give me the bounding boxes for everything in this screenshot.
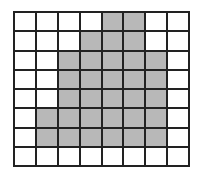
- grid-cell-empty: [15, 109, 35, 126]
- grid-cell-empty: [168, 52, 188, 69]
- grid-cell-shaded: [124, 109, 144, 126]
- grid-cell-empty: [168, 13, 188, 30]
- grid-cell-empty: [103, 148, 123, 165]
- grid-cell-shaded: [124, 90, 144, 107]
- grid-cell-shaded: [146, 109, 166, 126]
- grid-cell-empty: [37, 52, 57, 69]
- grid-cell-empty: [37, 90, 57, 107]
- grid-cell-shaded: [103, 109, 123, 126]
- grid-cell-shaded: [124, 52, 144, 69]
- grid-cell-empty: [81, 13, 101, 30]
- grid-cell-empty: [37, 148, 57, 165]
- grid-cell-empty: [59, 148, 79, 165]
- grid-cell-shaded: [59, 71, 79, 88]
- grid-cell-empty: [15, 32, 35, 49]
- grid-cell-empty: [59, 32, 79, 49]
- grid-cell-empty: [37, 32, 57, 49]
- grid-cell-shaded: [146, 90, 166, 107]
- grid-cell-shaded: [59, 90, 79, 107]
- grid-cell-empty: [124, 148, 144, 165]
- grid-cell-empty: [168, 32, 188, 49]
- grid-cell-shaded: [37, 109, 57, 126]
- grid-cell-shaded: [81, 32, 101, 49]
- grid-cell-shaded: [103, 129, 123, 146]
- grid-cell-empty: [168, 71, 188, 88]
- shaded-grid-diagram: [13, 11, 190, 167]
- grid-cell-shaded: [103, 13, 123, 30]
- grid-cell-shaded: [146, 129, 166, 146]
- grid-cell-empty: [15, 52, 35, 69]
- grid-cell-empty: [168, 109, 188, 126]
- grid-cell-empty: [168, 148, 188, 165]
- grid-cell-empty: [37, 13, 57, 30]
- grid-cell-shaded: [124, 32, 144, 49]
- grid-cell-shaded: [124, 13, 144, 30]
- grid-cell-shaded: [81, 109, 101, 126]
- grid-cell-empty: [15, 13, 35, 30]
- grid-cell-shaded: [124, 129, 144, 146]
- grid-cell-shaded: [81, 129, 101, 146]
- grid-cell-empty: [168, 90, 188, 107]
- grid-cell-shaded: [59, 129, 79, 146]
- grid-cell-shaded: [103, 71, 123, 88]
- grid-cell-shaded: [103, 52, 123, 69]
- grid-cell-empty: [168, 129, 188, 146]
- grid-cell-shaded: [59, 109, 79, 126]
- grid-cell-shaded: [103, 32, 123, 49]
- grid-cell-empty: [146, 32, 166, 49]
- grid-cell-empty: [146, 148, 166, 165]
- grid-cell-shaded: [124, 71, 144, 88]
- grid-cell-shaded: [81, 90, 101, 107]
- grid-cell-empty: [146, 13, 166, 30]
- grid-cell-empty: [15, 90, 35, 107]
- grid-cell-empty: [15, 71, 35, 88]
- grid-cell-empty: [37, 71, 57, 88]
- grid-cell-empty: [15, 148, 35, 165]
- grid-cell-shaded: [103, 90, 123, 107]
- grid-cell-shaded: [146, 71, 166, 88]
- grid-cell-shaded: [81, 52, 101, 69]
- grid-cell-shaded: [59, 52, 79, 69]
- grid-cell-shaded: [81, 71, 101, 88]
- grid-cell-shaded: [37, 129, 57, 146]
- grid-cell-empty: [15, 129, 35, 146]
- grid-cell-empty: [81, 148, 101, 165]
- grid-cell-empty: [59, 13, 79, 30]
- grid-cell-shaded: [146, 52, 166, 69]
